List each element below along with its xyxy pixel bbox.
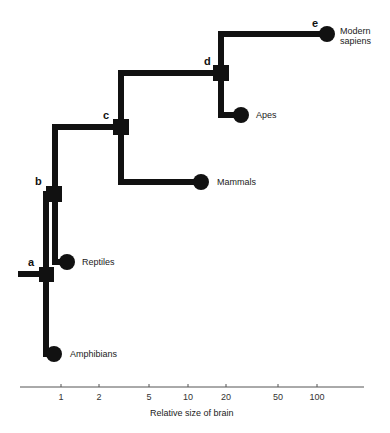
node-d-square <box>213 65 229 81</box>
tree-branches <box>21 34 327 354</box>
axis-title: Relative size of brain <box>150 408 234 418</box>
modern-sapiens-line2: sapiens <box>340 36 371 46</box>
reptiles-dot <box>59 254 75 270</box>
node-c-label: c <box>103 109 109 121</box>
mammals-label: Mammals <box>217 177 256 187</box>
node-a-square <box>39 267 54 282</box>
node-c-square <box>113 119 129 135</box>
tree-diagram <box>0 0 390 433</box>
node-b-square <box>46 186 62 202</box>
modern-sapiens-label: Modern sapiens <box>340 26 371 46</box>
modern-sapiens-line1: Modern <box>340 26 371 36</box>
tick-label-10: 10 <box>183 392 193 402</box>
tick-label-5: 5 <box>146 392 151 402</box>
tick-label-50: 50 <box>273 392 283 402</box>
tick-label-20: 20 <box>221 392 231 402</box>
x-axis <box>20 384 364 387</box>
mammals-dot <box>193 174 209 190</box>
node-a-label: a <box>28 256 34 268</box>
reptiles-label: Reptiles <box>82 257 115 267</box>
tick-label-2: 2 <box>96 392 101 402</box>
amphibians-dot <box>46 346 62 362</box>
apes-label: Apes <box>256 110 277 120</box>
node-d-label: d <box>204 55 211 67</box>
modern-sapiens-dot <box>319 26 335 42</box>
tick-label-100: 100 <box>309 392 324 402</box>
node-e-label: e <box>312 17 318 29</box>
tick-label-1: 1 <box>58 392 63 402</box>
node-b-label: b <box>35 175 42 187</box>
apes-dot <box>233 107 249 123</box>
amphibians-label: Amphibians <box>70 349 117 359</box>
